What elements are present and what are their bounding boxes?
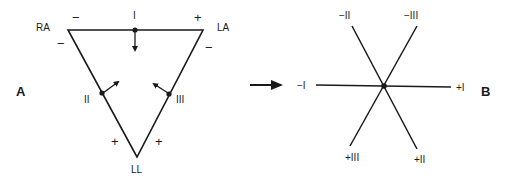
panel-a: A RA LA LL I II III − + − + − + [16, 10, 230, 175]
panel-b: −I +I −II +II −III +III B [297, 10, 490, 165]
lead-1-negative-sign: − [72, 10, 80, 25]
panel-b-label: B [481, 84, 490, 99]
axis-neg-3-label: −III [404, 10, 418, 21]
axis-pos-1-label: +I [456, 82, 465, 93]
lead-2-negative-sign: − [57, 36, 65, 51]
axis-pos-3-label: +III [345, 152, 359, 163]
axis-center-dot [381, 83, 387, 89]
axis-neg-1-label: −I [297, 80, 306, 91]
lead-3-label: III [176, 94, 184, 105]
panel-a-label: A [16, 84, 26, 99]
electrode-ra-label: RA [36, 22, 50, 33]
lead-1-label: I [133, 10, 136, 21]
einthoven-diagram: A RA LA LL I II III − + − + − + −I +I [0, 0, 506, 180]
lead-2-arrow-icon [103, 82, 118, 93]
lead-3-positive-sign: + [155, 134, 163, 149]
lead-1-positive-sign: + [194, 10, 202, 25]
electrode-ll-label: LL [131, 164, 143, 175]
electrode-la-label: LA [217, 22, 230, 33]
lead-3-arrow-icon [154, 84, 168, 93]
axis-pos-2-label: +II [414, 154, 425, 165]
lead-2-label: II [84, 94, 90, 105]
lead-2-positive-sign: + [111, 134, 119, 149]
axis-neg-2-label: −II [339, 10, 350, 21]
lead-3-negative-sign: − [205, 40, 213, 55]
